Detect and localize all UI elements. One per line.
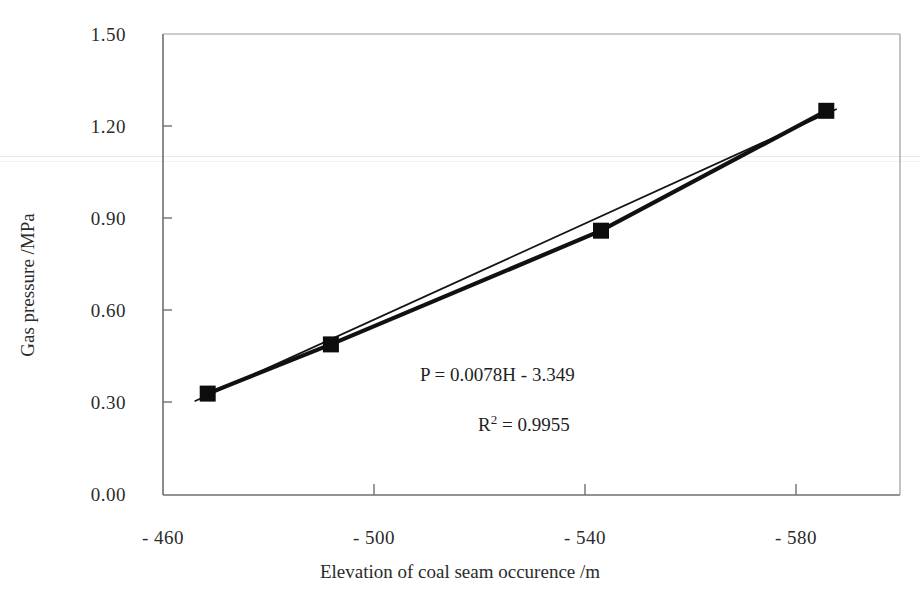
data-point-marker: [818, 103, 834, 119]
chart-figure: 1.50 1.20 0.90 0.60 0.30 0.00 - 460 - 50…: [0, 0, 920, 606]
data-point-marker: [593, 223, 609, 239]
trendline-series: [195, 109, 837, 401]
data-series-line: [208, 111, 827, 394]
axes-frame: [163, 34, 900, 495]
plot-area-svg: [0, 0, 920, 606]
data-point-marker: [200, 386, 216, 402]
y-axis-ticks: [163, 126, 172, 402]
x-axis-ticks: [374, 484, 796, 495]
data-point-marker: [323, 336, 339, 352]
